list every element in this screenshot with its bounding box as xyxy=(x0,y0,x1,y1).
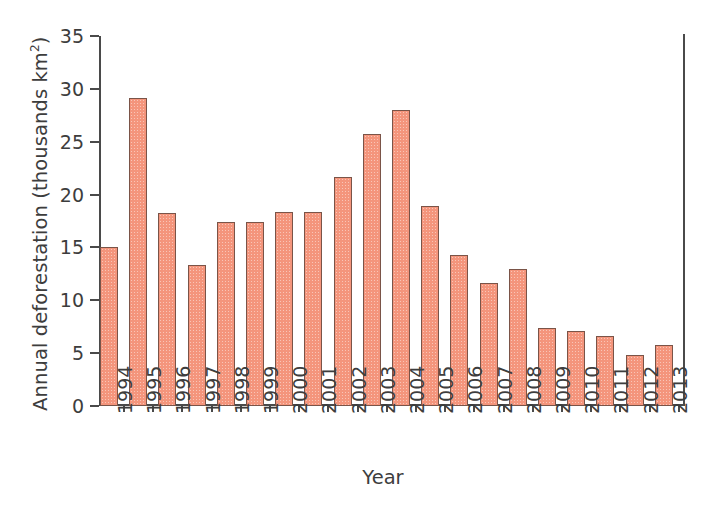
y-axis-title: Annual deforestation (thousands km2) xyxy=(28,24,52,424)
y-axis-tick: 35 xyxy=(90,35,99,37)
x-axis-tick-label: 1997 xyxy=(204,366,223,414)
x-axis-tick-label: 2001 xyxy=(320,366,339,414)
y-axis-tick-label: 25 xyxy=(60,132,90,151)
y-axis-tick: 30 xyxy=(90,88,99,90)
x-axis-tick-label: 2005 xyxy=(437,366,456,414)
x-axis-tick-label: 2000 xyxy=(291,366,310,414)
y-axis-tick-label: 20 xyxy=(60,185,90,204)
x-axis-tick-label: 1994 xyxy=(116,366,135,414)
bar xyxy=(392,110,410,406)
x-axis-tick-label: 2003 xyxy=(379,366,398,414)
x-axis-tick-label: 2002 xyxy=(350,366,369,414)
x-axis-tick-label: 2006 xyxy=(466,366,485,414)
x-axis-tick-label: 1998 xyxy=(233,366,252,414)
x-axis-title-text: Year xyxy=(362,466,403,489)
x-axis-tick-label: 2007 xyxy=(496,366,515,414)
x-axis-tick-label: 2013 xyxy=(671,366,690,414)
y-axis-tick: 25 xyxy=(90,141,99,143)
x-axis-tick-label: 2011 xyxy=(612,366,631,414)
bar xyxy=(129,98,147,406)
y-axis-tick: 15 xyxy=(90,246,99,248)
x-axis-tick-label: 2012 xyxy=(642,366,661,414)
bar-series xyxy=(99,36,685,406)
y-axis-tick: 10 xyxy=(90,299,99,301)
y-axis-title-close-paren: ) xyxy=(29,37,52,45)
deforestation-bar-chart: Annual deforestation (thousands km2) 051… xyxy=(0,0,718,512)
y-axis-title-text: Annual deforestation (thousands km xyxy=(29,52,52,411)
y-axis-tick-label: 35 xyxy=(60,27,90,46)
y-axis-tick: 5 xyxy=(90,352,99,354)
y-axis-tick: 0 xyxy=(90,405,99,407)
y-axis-tick-label: 5 xyxy=(72,344,90,363)
x-axis-tick-label: 1995 xyxy=(145,366,164,414)
x-axis-title: Year xyxy=(0,466,718,489)
y-axis-tick-label: 10 xyxy=(60,291,90,310)
y-axis-tick-label: 15 xyxy=(60,238,90,257)
x-axis-tick-label: 2009 xyxy=(554,366,573,414)
y-axis-tick-label: 30 xyxy=(60,79,90,98)
x-axis-tick-label: 2010 xyxy=(583,366,602,414)
x-axis-tick-label: 2004 xyxy=(408,366,427,414)
plot-area: 05101520253035 1994199519961997199819992… xyxy=(99,36,685,406)
x-axis-tick-label: 1996 xyxy=(174,366,193,414)
x-axis-tick-label: 1999 xyxy=(262,366,281,414)
y-axis-tick: 20 xyxy=(90,194,99,196)
y-axis-title-superscript: 2 xyxy=(28,44,42,52)
x-axis-tick-label: 2008 xyxy=(525,366,544,414)
y-axis-tick-label: 0 xyxy=(72,397,90,416)
